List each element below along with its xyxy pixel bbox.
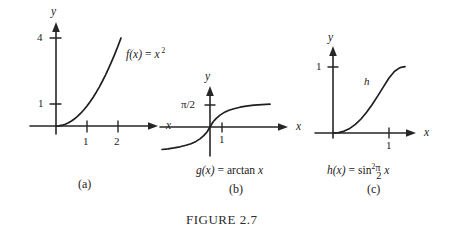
y-tick-label-1-c: 1 <box>316 61 322 72</box>
panel-c: y x 1 1 h <box>305 34 455 149</box>
equals-sign-b: = <box>218 164 225 176</box>
function-label-a: f(x)=x2 <box>126 47 165 60</box>
figure-caption: FIGURE 2.7 <box>186 212 257 228</box>
variable-c: x <box>384 164 389 176</box>
x-axis-arrow-c <box>406 129 416 137</box>
x-axis-arrow-a <box>148 122 158 130</box>
curve-label-h: h <box>364 76 370 87</box>
plot-c-svg <box>305 34 455 149</box>
function-label-b: g(x)=arctanx <box>196 165 263 177</box>
y-axis-arrow-b <box>206 86 214 96</box>
variable-b: x <box>258 164 263 176</box>
curve-fx-squared <box>56 38 121 126</box>
y-axis-arrow-a <box>52 22 60 32</box>
equals-sign-c: = <box>349 164 356 176</box>
x-tick-label-1-c: 1 <box>386 140 392 151</box>
x-axis-label-c: x <box>424 127 429 139</box>
panel-letter-b: (b) <box>229 183 243 195</box>
arctan-text-b: arctan <box>227 164 255 176</box>
y-axis-label-b: y <box>205 71 210 83</box>
y-axis-label-a: y <box>51 6 56 18</box>
panel-letter-a: (a) <box>78 178 91 190</box>
sin-text-c: sin <box>358 164 371 176</box>
exponent-a: 2 <box>162 46 166 55</box>
y-axis-label-c: y <box>328 32 333 44</box>
x-tick-label-1-b: 1 <box>219 134 225 145</box>
base-a: x <box>154 48 159 60</box>
panel-letter-c: (c) <box>367 183 380 195</box>
x-tick-label-1-a: 1 <box>83 136 89 147</box>
x-tick-label-2-a: 2 <box>114 136 120 147</box>
x-axis-label-b: x <box>296 121 301 133</box>
function-name-c: h(x) <box>327 164 346 176</box>
function-name-a: f(x) <box>126 48 142 60</box>
pi-over-2-fraction-c: π2 <box>375 164 384 179</box>
y-tick-label-pi-over-2-b: π/2 <box>181 99 195 110</box>
pi-denominator-c: 2 <box>376 171 381 182</box>
figure-container: y x 4 1 1 2 f(x)=x2 (a) y x π/2 <box>0 0 464 237</box>
y-axis-arrow-c <box>329 46 337 56</box>
y-tick-label-1-a: 1 <box>38 98 44 109</box>
equals-sign-a: = <box>145 48 152 60</box>
y-tick-label-4-a: 4 <box>37 32 43 43</box>
panel-b: y x π/2 1 <box>160 72 320 162</box>
x-axis-arrow-b <box>278 123 288 131</box>
plot-b-svg <box>160 72 320 162</box>
function-label-c: h(x)=sin2π2x <box>327 163 389 179</box>
function-name-b: g(x) <box>196 164 215 176</box>
